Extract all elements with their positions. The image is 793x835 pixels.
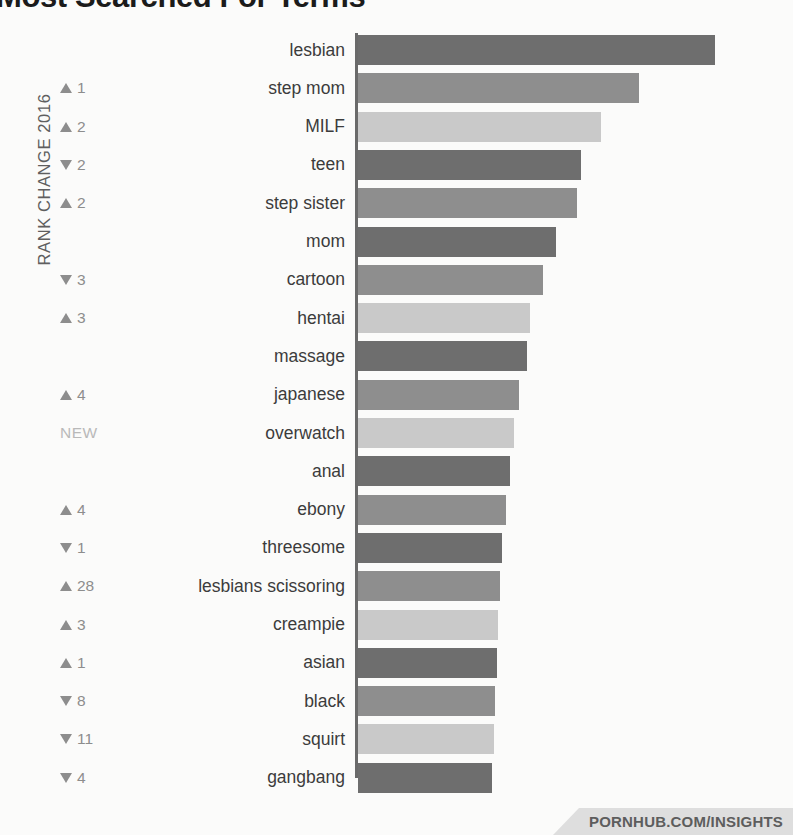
chart-row: massage xyxy=(0,341,793,371)
rank-change-value: 28 xyxy=(77,577,94,595)
rank-change-MILF: 2 xyxy=(60,111,152,143)
rank-change-value: 3 xyxy=(77,309,86,327)
category-label: massage xyxy=(150,340,345,372)
rank-change-value: 1 xyxy=(77,539,86,557)
bar-overwatch xyxy=(358,418,514,448)
rank-change-value: 3 xyxy=(77,616,86,634)
bar-black xyxy=(358,686,495,716)
chart-row: mom xyxy=(0,227,793,257)
category-label: step mom xyxy=(150,72,345,104)
chart-row: 1threesome xyxy=(0,533,793,563)
rank-change-value: 4 xyxy=(77,769,86,787)
triangle-up-icon xyxy=(60,83,72,93)
rank-change-value: 11 xyxy=(77,730,93,748)
bar-asian xyxy=(358,648,497,678)
chart-row: NEWoverwatch xyxy=(0,418,793,448)
triangle-down-icon xyxy=(60,696,72,706)
bar-massage xyxy=(358,341,527,371)
bar-MILF xyxy=(358,112,601,142)
category-label: ebony xyxy=(150,494,345,526)
category-label: lesbian xyxy=(150,34,345,66)
triangle-down-icon xyxy=(60,543,72,553)
category-label: threesome xyxy=(150,532,345,564)
rank-change-value: 2 xyxy=(77,118,86,136)
chart-row: 11squirt xyxy=(0,724,793,754)
triangle-down-icon xyxy=(60,160,72,170)
chart-row: 3hentai xyxy=(0,303,793,333)
category-label: mom xyxy=(150,226,345,258)
triangle-down-icon xyxy=(60,275,72,285)
triangle-up-icon xyxy=(60,620,72,630)
footer-label: PORNHUB.COM/INSIGHTS xyxy=(589,813,793,830)
chart-row: 1step mom xyxy=(0,73,793,103)
triangle-up-icon xyxy=(60,390,72,400)
category-label: asian xyxy=(150,647,345,679)
category-label: lesbians scissoring xyxy=(150,570,345,602)
rank-change-value: 1 xyxy=(77,654,86,672)
triangle-up-icon xyxy=(60,581,72,591)
chart-row: 2MILF xyxy=(0,112,793,142)
triangle-up-icon xyxy=(60,658,72,668)
rank-change-japanese: 4 xyxy=(60,379,152,411)
footer-banner: PORNHUB.COM/INSIGHTS xyxy=(553,808,793,835)
bar-gangbang xyxy=(358,763,492,793)
bar-cartoon xyxy=(358,265,543,295)
rank-change-value: 2 xyxy=(77,156,86,174)
chart-row: 4gangbang xyxy=(0,763,793,793)
rank-change-asian: 1 xyxy=(60,647,152,679)
rank-change-value: 4 xyxy=(77,501,86,519)
chart-row: 4japanese xyxy=(0,380,793,410)
rank-change-black: 8 xyxy=(60,685,152,717)
bar-squirt xyxy=(358,724,494,754)
category-label: gangbang xyxy=(150,762,345,794)
bar-mom xyxy=(358,227,556,257)
triangle-down-icon xyxy=(60,734,72,744)
rank-change-overwatch: NEW xyxy=(60,417,152,449)
chart-row: 28lesbians scissoring xyxy=(0,571,793,601)
chart-row: 1asian xyxy=(0,648,793,678)
chart-row: 3cartoon xyxy=(0,265,793,295)
chart-row: 3creampie xyxy=(0,610,793,640)
triangle-up-icon xyxy=(60,122,72,132)
chart-row: 8black xyxy=(0,686,793,716)
bar-step-sister xyxy=(358,188,577,218)
bar-ebony xyxy=(358,495,506,525)
rank-change-value: 8 xyxy=(77,692,86,710)
triangle-down-icon xyxy=(60,773,72,783)
chart-row: anal xyxy=(0,456,793,486)
rank-change-value: 2 xyxy=(77,194,86,212)
chart-row: 2step sister xyxy=(0,188,793,218)
rank-change-creampie: 3 xyxy=(60,609,152,641)
bar-japanese xyxy=(358,380,519,410)
chart-row: lesbian xyxy=(0,35,793,65)
category-label: MILF xyxy=(150,111,345,143)
category-label: squirt xyxy=(150,723,345,755)
bar-lesbian xyxy=(358,35,715,65)
rank-change-cartoon: 3 xyxy=(60,264,152,296)
rank-change-lesbians-scissoring: 28 xyxy=(60,570,152,602)
bar-chart: lesbian1step mom2MILF2teen2step sistermo… xyxy=(0,0,793,800)
rank-change-teen: 2 xyxy=(60,149,152,181)
bar-step-mom xyxy=(358,73,639,103)
category-label: hentai xyxy=(150,302,345,334)
rank-change-hentai: 3 xyxy=(60,302,152,334)
category-label: black xyxy=(150,685,345,717)
triangle-up-icon xyxy=(60,505,72,515)
chart-row: 2teen xyxy=(0,150,793,180)
category-label: overwatch xyxy=(150,417,345,449)
rank-change-new-badge: NEW xyxy=(60,424,98,442)
rank-change-step-mom: 1 xyxy=(60,72,152,104)
bar-anal xyxy=(358,456,510,486)
rank-change-step-sister: 2 xyxy=(60,187,152,219)
category-label: cartoon xyxy=(150,264,345,296)
category-label: anal xyxy=(150,455,345,487)
category-label: step sister xyxy=(150,187,345,219)
bar-lesbians-scissoring xyxy=(358,571,500,601)
rank-change-squirt: 11 xyxy=(60,723,152,755)
rank-change-value: 3 xyxy=(77,271,86,289)
triangle-up-icon xyxy=(60,198,72,208)
rank-change-value: 4 xyxy=(77,386,86,404)
bar-hentai xyxy=(358,303,530,333)
rank-change-threesome: 1 xyxy=(60,532,152,564)
bar-creampie xyxy=(358,610,498,640)
